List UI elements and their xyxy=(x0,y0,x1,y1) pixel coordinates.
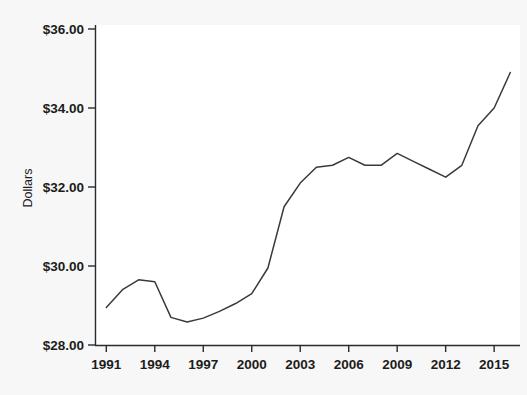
y-tick-label: $34.00 xyxy=(43,101,84,116)
y-tick-label: $36.00 xyxy=(43,22,84,37)
x-tick-label: 1997 xyxy=(188,357,218,372)
chart-figure: $36.00$34.00$32.00$30.00$28.00 199119941… xyxy=(0,0,527,395)
x-tick-label: 2003 xyxy=(285,357,316,372)
x-tick-label: 2012 xyxy=(431,357,461,372)
y-tick-label: $30.00 xyxy=(43,259,84,274)
x-tick-label: 2015 xyxy=(479,357,510,372)
x-tick-label: 1994 xyxy=(140,357,171,372)
line-chart: $36.00$34.00$32.00$30.00$28.00 199119941… xyxy=(0,0,527,395)
y-tick-label: $28.00 xyxy=(43,338,84,353)
y-axis-title: Dollars xyxy=(21,169,35,208)
x-tick-label: 2009 xyxy=(382,357,412,372)
plot-area-background xyxy=(95,25,520,345)
x-tick-label: 2000 xyxy=(237,357,267,372)
x-tick-label: 2006 xyxy=(334,357,365,372)
y-tick-label: $32.00 xyxy=(43,180,84,195)
x-tick-label: 1991 xyxy=(91,357,122,372)
